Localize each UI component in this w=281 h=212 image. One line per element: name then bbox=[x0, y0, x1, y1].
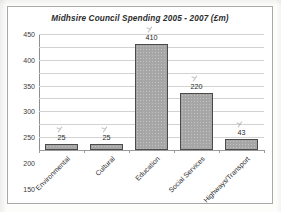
category-label-text: Education bbox=[133, 155, 160, 182]
y-axis-tick-label: 450 bbox=[23, 31, 35, 38]
pencil-annotation-mark bbox=[190, 73, 199, 82]
pencil-annotation-mark bbox=[55, 124, 64, 133]
x-axis-tick bbox=[129, 150, 130, 153]
bar bbox=[180, 93, 213, 150]
x-axis-tick bbox=[84, 150, 85, 153]
bar-fill-texture bbox=[136, 45, 167, 149]
y-axis-tick-label: 350 bbox=[23, 82, 35, 89]
y-axis-tick-label: 300 bbox=[23, 108, 35, 115]
category-label-text: Social Services bbox=[167, 155, 206, 194]
bar-fill-texture bbox=[181, 94, 212, 149]
y-axis-tick-label: 200 bbox=[23, 159, 35, 166]
y-axis-tick-label: 400 bbox=[23, 56, 35, 63]
x-axis-tick bbox=[39, 150, 40, 153]
bar-data-label: 25 bbox=[103, 133, 111, 142]
x-axis-tick bbox=[219, 150, 220, 153]
chart-frame: Midhsire Council Spending 2005 - 2007 (£… bbox=[7, 6, 273, 204]
bar-data-label: 220 bbox=[191, 82, 203, 91]
bar-data-label: 410 bbox=[146, 33, 158, 42]
y-axis-tick-label: 250 bbox=[23, 134, 35, 141]
chart-title: Midhsire Council Spending 2005 - 2007 (£… bbox=[8, 14, 272, 23]
pencil-annotation-mark bbox=[145, 24, 154, 33]
x-axis-tick bbox=[264, 150, 265, 153]
category-label-text: Highways/Transport bbox=[202, 155, 251, 204]
bar bbox=[135, 44, 168, 150]
y-axis-tick-label: 100 bbox=[23, 211, 35, 212]
category-label-text: Cultural bbox=[93, 155, 115, 177]
x-axis-tick bbox=[174, 150, 175, 153]
bar-data-label: 43 bbox=[238, 128, 246, 137]
category-label-text: Environmental bbox=[34, 155, 71, 192]
bar-data-label: 25 bbox=[58, 133, 66, 142]
chart-screenshot: Midhsire Council Spending 2005 - 2007 (£… bbox=[0, 0, 281, 212]
y-axis-line bbox=[39, 34, 40, 150]
